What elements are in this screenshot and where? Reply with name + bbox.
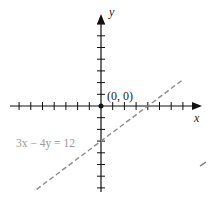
origin-label: (0, 0) <box>107 89 133 104</box>
pencil-mark-icon <box>200 162 206 166</box>
x-axis-arrow-icon <box>192 102 202 110</box>
origin-point <box>99 104 104 109</box>
y-axis-label: y <box>109 5 114 20</box>
x-axis-label: x <box>194 111 199 126</box>
equation-label: 3x − 4y = 12 <box>16 137 75 149</box>
y-axis-arrow-icon <box>97 14 105 24</box>
